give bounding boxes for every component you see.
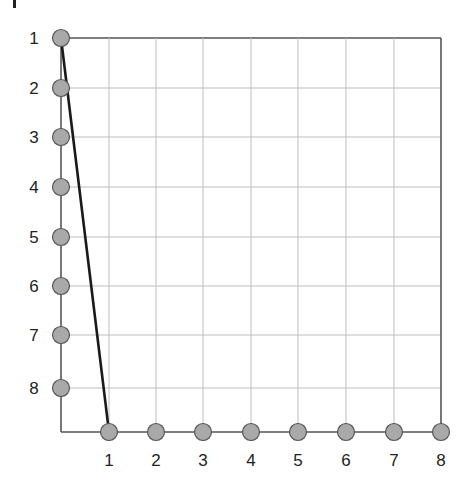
bottom-node-label: 6 (341, 451, 350, 470)
bottom-node-6 (338, 424, 355, 441)
left-node-label: 6 (29, 277, 38, 296)
bottom-node-1 (101, 424, 118, 441)
left-node-7 (53, 327, 70, 344)
bottom-node-8 (433, 424, 450, 441)
bottom-node-2 (148, 424, 165, 441)
left-node-label: 7 (29, 326, 38, 345)
left-node-column: 12345678 (29, 29, 69, 398)
bottom-node-3 (195, 424, 212, 441)
left-node-label: 8 (29, 379, 38, 398)
left-node-label: 1 (29, 29, 38, 48)
bottom-node-5 (290, 424, 307, 441)
left-node-5 (53, 229, 70, 246)
left-node-label: 2 (29, 79, 38, 98)
bottom-node-label: 1 (104, 451, 113, 470)
grid-lines (61, 38, 441, 432)
left-node-label: 5 (29, 228, 38, 247)
left-node-6 (53, 278, 70, 295)
left-node-label: 3 (29, 128, 38, 147)
left-node-label: 4 (29, 178, 38, 197)
left-node-8 (53, 380, 70, 397)
bottom-node-label: 7 (389, 451, 398, 470)
left-node-3 (53, 129, 70, 146)
grid-diagram: 12345678 12345678 (0, 0, 470, 483)
bottom-node-label: 3 (198, 451, 207, 470)
left-node-4 (53, 179, 70, 196)
bottom-node-label: 5 (293, 451, 302, 470)
bottom-node-4 (243, 424, 260, 441)
bottom-node-row: 12345678 (101, 424, 450, 471)
bottom-node-7 (386, 424, 403, 441)
bottom-node-label: 4 (246, 451, 255, 470)
left-node-1 (53, 30, 70, 47)
bottom-node-label: 8 (436, 451, 445, 470)
bottom-node-label: 2 (151, 451, 160, 470)
left-node-2 (53, 80, 70, 97)
